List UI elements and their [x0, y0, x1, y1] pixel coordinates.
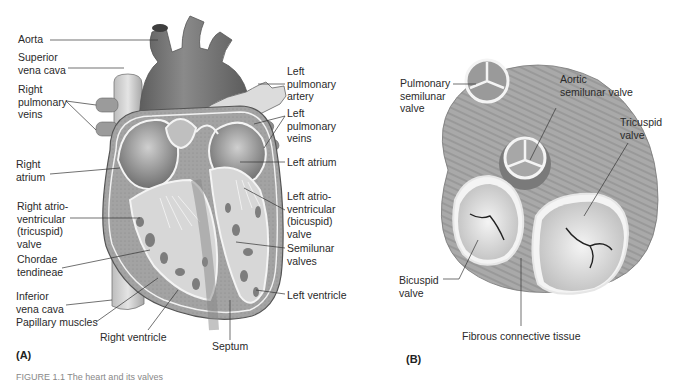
label-semilunar-valves: Semilunar valves	[287, 242, 334, 267]
label-right-av-tricuspid-valve: Right atrio- ventricular (tricuspid) val…	[17, 200, 68, 250]
label-right-atrium: Right atrium	[16, 158, 45, 183]
label-right-ventricle: Right ventricle	[100, 331, 167, 344]
panel-tag-b: (B)	[406, 353, 421, 365]
label-fibrous-connective-tissue: Fibrous connective tissue	[462, 330, 580, 343]
label-left-pulmonary-veins: Left pulmonary veins	[287, 107, 336, 145]
label-pulmonary-semilunar-valve: Pulmonary semilunar valve	[400, 77, 450, 115]
bicuspid-valve-shape	[453, 176, 523, 265]
label-left-atrium: Left atrium	[287, 156, 337, 169]
diagram-artwork	[0, 0, 680, 380]
label-chordae-tendineae: Chordae tendineae	[17, 253, 63, 278]
label-papillary-muscles: Papillary muscles	[16, 316, 98, 329]
label-left-ventricle: Left ventricle	[287, 289, 347, 302]
label-left-av-bicuspid-valve: Left atrio- ventricular (bicuspid) valve	[287, 190, 335, 240]
figure-caption-partial: FIGURE 1.1 The heart and its valves	[16, 372, 163, 380]
label-right-pulmonary-veins: Right pulmonary veins	[18, 83, 67, 121]
label-aorta: Aorta	[18, 33, 43, 46]
label-bicuspid-valve: Bicuspid valve	[399, 274, 439, 299]
panel-tag-a: (A)	[16, 349, 31, 361]
label-superior-vena-cava: Superior vena cava	[18, 51, 66, 76]
label-left-pulmonary-artery: Left pulmonary artery	[287, 65, 336, 103]
label-tricuspid-valve: Tricuspid valve	[620, 116, 662, 141]
heart-illustration	[96, 16, 286, 330]
label-inferior-vena-cava: Inferior vena cava	[16, 290, 64, 315]
label-aortic-semilunar-valve: Aortic semilunar valve	[560, 73, 633, 98]
pulmonary-valve-shape	[466, 60, 508, 102]
label-septum: Septum	[212, 340, 248, 353]
